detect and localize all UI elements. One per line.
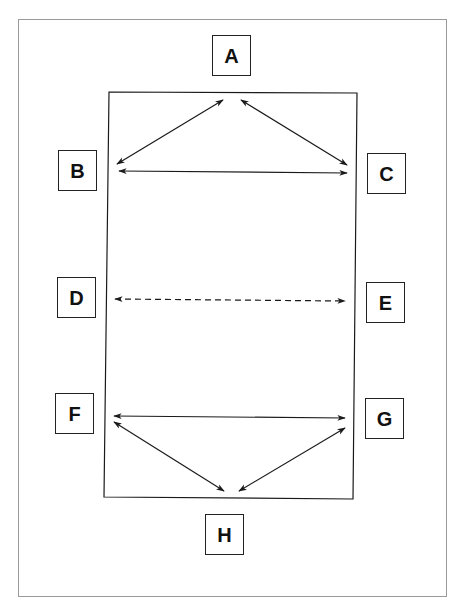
node-a: A: [212, 35, 251, 76]
node-g-label: G: [377, 409, 393, 429]
node-e: E: [366, 282, 405, 323]
node-h-label: H: [217, 525, 231, 545]
node-b-label: B: [70, 161, 84, 181]
edge-d-e: [115, 299, 345, 301]
node-e-label: E: [379, 293, 392, 313]
node-b: B: [58, 150, 97, 191]
node-h: H: [205, 514, 244, 555]
node-g: G: [365, 398, 404, 439]
node-c-label: C: [379, 164, 393, 184]
node-a-label: A: [224, 46, 238, 66]
edge-f-g: [114, 416, 345, 418]
edge-f-h: [114, 422, 224, 491]
inner-rectangle: [104, 92, 357, 499]
edge-a-c: [241, 100, 347, 165]
edge-a-b: [117, 100, 223, 164]
edge-b-c: [119, 171, 347, 173]
node-d-label: D: [69, 288, 83, 308]
node-d: D: [57, 277, 96, 318]
edge-g-h: [239, 428, 345, 491]
node-f-label: F: [68, 404, 80, 424]
node-f: F: [55, 393, 94, 434]
node-c: C: [367, 153, 406, 194]
